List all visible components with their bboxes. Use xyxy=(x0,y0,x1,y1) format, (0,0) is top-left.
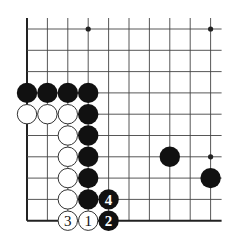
white-stone xyxy=(58,168,77,187)
black-stone-icon xyxy=(160,147,180,167)
white-stone-icon xyxy=(38,105,57,124)
white-stone-icon xyxy=(58,190,77,209)
white-stone-icon xyxy=(58,147,77,166)
move-number-label: 3 xyxy=(64,213,72,229)
black-stone xyxy=(37,83,57,103)
white-stone xyxy=(58,105,77,124)
white-stone xyxy=(58,126,77,145)
white-stone xyxy=(58,147,77,166)
black-stone xyxy=(78,125,98,145)
move-number-label: 1 xyxy=(84,213,92,229)
black-stone-icon xyxy=(200,168,220,188)
white-stone-icon xyxy=(58,105,77,124)
black-stone xyxy=(78,168,98,188)
black-stone xyxy=(78,189,98,209)
white-stone-move-1: 1 xyxy=(79,211,98,230)
black-stone xyxy=(58,83,78,103)
white-stone-move-3: 3 xyxy=(58,211,77,230)
black-stone-icon xyxy=(17,83,37,103)
black-stone-icon xyxy=(78,147,98,167)
move-number-label: 4 xyxy=(105,192,113,208)
black-stone-icon xyxy=(78,168,98,188)
hoshi-point-icon xyxy=(86,26,91,31)
black-stone xyxy=(160,147,180,167)
black-stone-icon xyxy=(78,189,98,209)
white-stone xyxy=(17,105,36,124)
white-stone-icon xyxy=(17,105,36,124)
white-stone-icon xyxy=(58,126,77,145)
black-stone-move-4: 4 xyxy=(98,189,118,209)
black-stone xyxy=(200,168,220,188)
white-stone xyxy=(38,105,57,124)
black-stone-icon xyxy=(78,83,98,103)
white-stone xyxy=(58,190,77,209)
black-stone-icon xyxy=(78,125,98,145)
black-stone xyxy=(78,83,98,103)
black-stone-icon xyxy=(58,83,78,103)
black-stone xyxy=(78,147,98,167)
move-number-label: 2 xyxy=(105,213,113,229)
go-board: 4312 xyxy=(0,0,236,246)
hoshi-point-icon xyxy=(208,26,213,31)
black-stone-icon xyxy=(37,83,57,103)
black-stone xyxy=(17,83,37,103)
black-stone xyxy=(78,104,98,124)
black-stone-move-2: 2 xyxy=(98,211,118,231)
white-stone-icon xyxy=(58,168,77,187)
hoshi-point-icon xyxy=(208,154,213,159)
black-stone-icon xyxy=(78,104,98,124)
